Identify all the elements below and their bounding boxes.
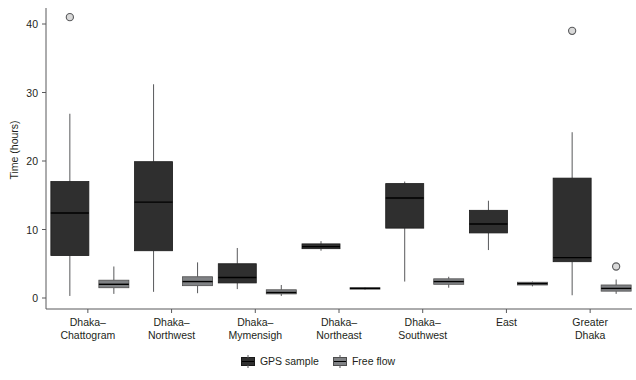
x-tick-label: Dhaka– (405, 316, 441, 328)
legend-item-gps-sample[interactable]: GPS sample (241, 355, 319, 367)
outlier-point (569, 27, 576, 34)
box-plot-item (99, 266, 129, 293)
plot-area: 010203040Dhaka–ChattogramDhaka–Northwest… (0, 0, 636, 380)
box-plot-item (601, 263, 631, 294)
y-tick-label: 20 (26, 155, 38, 167)
box-plot-item (434, 277, 464, 288)
x-tick-label: Chattogram (60, 329, 115, 341)
x-tick-label: Northwest (148, 329, 195, 341)
x-tick-label: Dhaka– (321, 316, 357, 328)
y-tick-label: 40 (26, 18, 38, 30)
legend-swatch-icon (241, 357, 255, 366)
x-tick-label: Dhaka– (70, 316, 106, 328)
box-plot-item (469, 201, 507, 250)
x-tick-label: Dhaka (575, 329, 606, 341)
boxplot-figure: Time (hours) 010203040Dhaka–ChattogramDh… (0, 0, 636, 380)
box-series-gps-sample (51, 14, 591, 296)
box-plot-item (386, 182, 424, 282)
box-plot-item (218, 248, 256, 289)
x-tick-label: Mymensigh (228, 329, 282, 341)
box-plot-item (517, 282, 547, 287)
box-plot-item (266, 285, 296, 296)
x-tick-label: Southwest (398, 329, 447, 341)
legend-label: Free flow (352, 355, 395, 367)
y-tick-label: 30 (26, 87, 38, 99)
outlier-point (66, 14, 73, 21)
axes (46, 8, 632, 309)
box-series-free-flow (99, 262, 631, 296)
legend-item-free-flow[interactable]: Free flow (333, 355, 395, 367)
y-axis-ticks: 010203040 (26, 18, 46, 304)
box-plot-item (302, 241, 340, 251)
box-plot-item (553, 27, 591, 295)
legend-swatch-icon (333, 357, 347, 366)
box-plot-item (350, 287, 380, 290)
outlier-point (613, 263, 620, 270)
x-tick-label: Dhaka– (153, 316, 189, 328)
x-tick-label: East (496, 316, 517, 328)
x-tick-label: Northeast (316, 329, 362, 341)
boxplot-svg: 010203040Dhaka–ChattogramDhaka–Northwest… (0, 0, 636, 380)
box-plot-item (51, 14, 89, 296)
chart-legend: GPS sampleFree flow (0, 355, 636, 367)
y-tick-label: 10 (26, 224, 38, 236)
y-tick-label: 0 (32, 292, 38, 304)
x-tick-label: Greater (572, 316, 608, 328)
x-tick-label: Dhaka– (237, 316, 273, 328)
x-axis-ticks: Dhaka–ChattogramDhaka–NorthwestDhaka–Mym… (60, 309, 608, 341)
box-plot-item (183, 262, 213, 293)
box-plot-item (135, 84, 173, 292)
legend-label: GPS sample (260, 355, 319, 367)
